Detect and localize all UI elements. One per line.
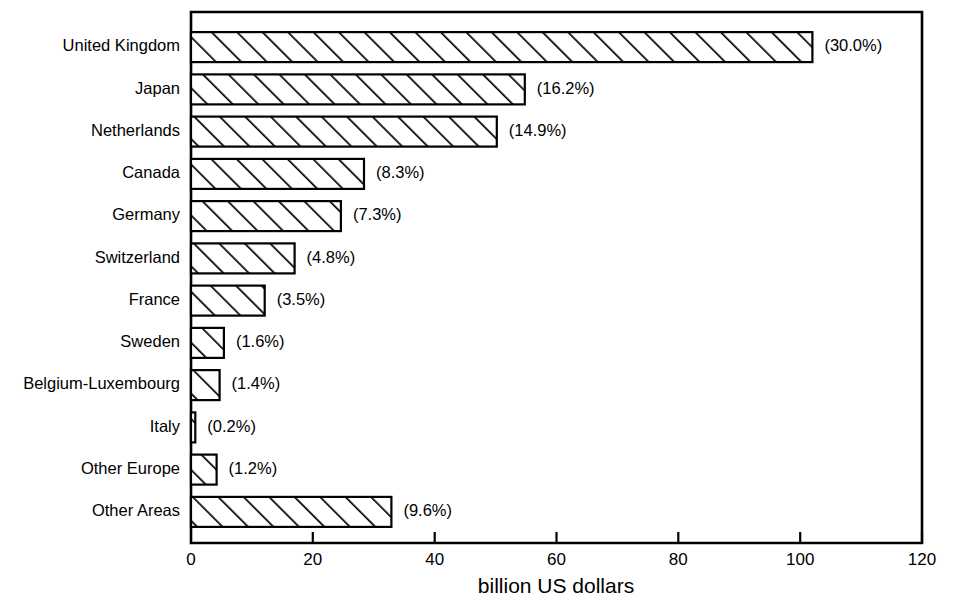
x-tick-label: 80	[669, 550, 688, 569]
value-annotation: (3.5%)	[277, 290, 326, 308]
value-annotation: (8.3%)	[376, 163, 425, 181]
value-annotation: (1.4%)	[232, 374, 281, 392]
value-annotation: (0.2%)	[207, 417, 256, 435]
bar	[191, 159, 364, 189]
value-annotation: (1.6%)	[236, 332, 285, 350]
bar	[191, 243, 295, 273]
bars-layer	[191, 32, 812, 527]
bar	[191, 370, 220, 400]
x-tick-label: 0	[186, 550, 195, 569]
bar	[191, 286, 265, 316]
value-annotation: (4.8%)	[307, 248, 356, 266]
category-label: Italy	[150, 417, 181, 435]
x-tick-label: 120	[908, 550, 936, 569]
x-axis: 020406080100120	[186, 532, 936, 569]
value-annotation: (16.2%)	[537, 79, 595, 97]
category-label: France	[129, 290, 180, 308]
x-tick-label: 20	[303, 550, 322, 569]
value-annotation: (30.0%)	[824, 36, 882, 54]
category-label: Belgium-Luxembourg	[23, 374, 180, 392]
category-label: Japan	[135, 79, 180, 97]
category-label: Canada	[122, 163, 181, 181]
bar	[191, 74, 525, 104]
bar	[191, 117, 497, 147]
category-label: Switzerland	[95, 248, 180, 266]
category-label: Other Europe	[81, 459, 180, 477]
bar	[191, 201, 341, 231]
value-annotations: (30.0%)(16.2%)(14.9%)(8.3%)(7.3%)(4.8%)(…	[207, 36, 882, 519]
x-axis-title: billion US dollars	[478, 574, 634, 597]
category-label: Sweden	[120, 332, 180, 350]
category-label: United Kingdom	[63, 36, 180, 54]
x-tick-label: 60	[547, 550, 566, 569]
category-label: Germany	[112, 205, 181, 223]
value-annotation: (9.6%)	[403, 501, 452, 519]
category-label: Other Areas	[92, 501, 180, 519]
bar	[191, 412, 195, 442]
value-annotation: (1.2%)	[229, 459, 278, 477]
bar-chart: United KingdomJapanNetherlandsCanadaGerm…	[0, 0, 953, 616]
chart-canvas: United KingdomJapanNetherlandsCanadaGerm…	[0, 0, 953, 616]
bar	[191, 455, 217, 485]
bar	[191, 328, 224, 358]
value-annotation: (14.9%)	[509, 121, 567, 139]
bar	[191, 497, 391, 527]
category-label: Netherlands	[91, 121, 180, 139]
value-annotation: (7.3%)	[353, 205, 402, 223]
x-tick-label: 40	[425, 550, 444, 569]
category-labels: United KingdomJapanNetherlandsCanadaGerm…	[23, 36, 181, 519]
x-tick-label: 100	[786, 550, 814, 569]
bar	[191, 32, 812, 62]
